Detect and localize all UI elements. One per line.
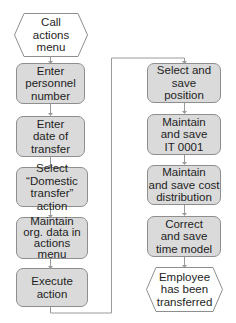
node-label: Enter personnel number [25,65,76,103]
node-label: Enter date of transfer [31,118,70,156]
step-select-domestic-transfer: Select “Domestic transfer” action [16,167,88,207]
node-label: Call actions menu [33,16,69,54]
step-select-save-position: Select and save position [147,63,221,103]
process-flowchart: Call actions menu Enter personnel number… [0,0,236,323]
node-label: Select “Domestic transfer” action [17,162,87,212]
node-label: Correct and save time model [156,218,212,256]
step-maintain-org-data: Maintain org. data in actions menu [16,217,88,259]
step-maintain-save-cost-distribution: Maintain and save cost distribution [147,165,221,205]
node-label: Maintain and save cost distribution [149,166,220,204]
node-label: Maintain and save IT 0001 [161,116,208,154]
step-execute-action: Execute action [16,268,88,307]
node-label: Execute action [31,275,73,300]
end-event-employee-transferred: Employee has been transferred [146,267,223,312]
step-enter-personnel-number: Enter personnel number [16,63,85,104]
node-label: Maintain org. data in actions menu [23,216,81,260]
node-label: Employee has been transferred [157,271,213,309]
node-label: Select and save position [157,64,211,102]
start-event-call-actions-menu: Call actions menu [14,13,88,57]
step-maintain-save-it0001: Maintain and save IT 0001 [147,114,221,155]
step-correct-save-time-model: Correct and save time model [147,216,221,257]
step-enter-date-of-transfer: Enter date of transfer [16,116,85,157]
